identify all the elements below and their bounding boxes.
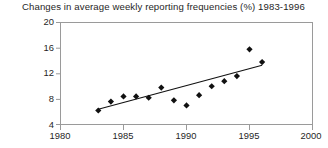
chart-container: Changes in average weekly reporting freq… <box>0 0 328 148</box>
data-point-marker <box>183 102 189 108</box>
data-point-marker <box>108 98 114 104</box>
data-point-marker <box>259 59 265 65</box>
data-point-marker <box>209 83 215 89</box>
data-point-marker <box>158 84 164 90</box>
x-axis-ticks <box>61 125 313 130</box>
plot-svg <box>0 0 328 148</box>
data-point-marker <box>234 73 240 79</box>
data-point-marker <box>171 97 177 103</box>
data-point-marker <box>246 46 252 52</box>
data-point-marker <box>196 92 202 98</box>
trendline-layer <box>98 65 262 109</box>
data-point-marker <box>221 78 227 84</box>
y-axis-ticks <box>56 23 60 125</box>
data-point-marker <box>120 93 126 99</box>
trendline <box>98 65 262 109</box>
